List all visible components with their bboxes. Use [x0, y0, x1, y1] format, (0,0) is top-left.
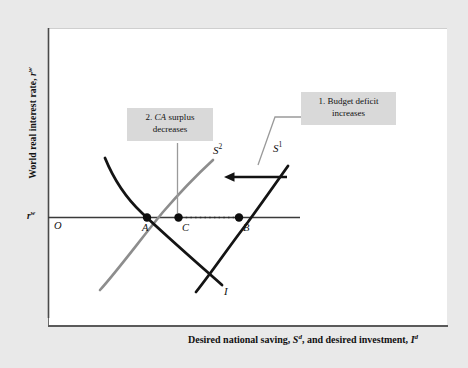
y-axis-title-symbol: r — [28, 72, 38, 76]
curve-label-saving-1: S1 — [273, 142, 282, 154]
x-axis-title-text-1: Desired national saving, — [188, 334, 293, 345]
x-axis-title: Desired national saving, Sd, and desired… — [188, 334, 418, 345]
point-marker-b — [235, 213, 243, 221]
point-label-b: B — [243, 222, 249, 233]
callout-ca-surplus: 2. CA surplus decreases — [127, 108, 213, 141]
curve-label-saving-2: S2 — [213, 144, 222, 156]
y-axis-title: World real interest rate, rw — [28, 28, 38, 218]
x-axis-title-superscript-investment: d — [415, 333, 419, 341]
callout-ca-term: CA — [155, 112, 167, 122]
curve-label-saving-2-superscript: 2 — [219, 142, 223, 151]
x-axis-title-text-2: , and desired investment, — [302, 334, 411, 345]
y-axis-title-text: World real interest rate, — [28, 76, 38, 179]
figure-container: World real interest rate, rw Desired nat… — [0, 0, 468, 368]
point-label-a: A — [142, 222, 148, 233]
curve-label-investment: I — [224, 285, 228, 297]
curve-label-saving-1-superscript: 1 — [279, 140, 283, 149]
point-label-c: C — [182, 222, 189, 233]
y-axis-tick-superscript: w — [31, 209, 35, 216]
y-axis-title-superscript: w — [26, 67, 34, 72]
point-marker-c — [174, 213, 182, 221]
curve-investment — [105, 158, 222, 285]
chart-vector-layer — [0, 0, 468, 368]
callout-ca-prefix: 2. — [146, 112, 155, 122]
origin-label: O — [54, 220, 62, 231]
point-marker-a — [143, 213, 151, 221]
callout-budget-deficit: 1. Budget deficit increases — [301, 92, 396, 125]
y-axis-tick-label-rw: rw — [27, 211, 35, 221]
